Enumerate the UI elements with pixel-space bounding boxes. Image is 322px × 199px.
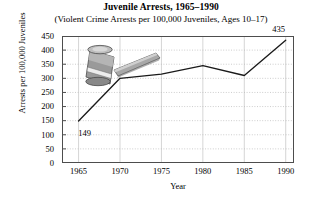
- x-tick-label: 1970: [112, 167, 129, 176]
- line-chart-svg: [62, 36, 294, 163]
- y-tick-label: 250: [41, 88, 58, 97]
- y-tick-label: 350: [41, 60, 58, 69]
- x-tick-label: 1975: [153, 167, 170, 176]
- x-tick-label: 1990: [277, 167, 294, 176]
- y-tick-label: 50: [46, 145, 59, 154]
- x-axis-tick-labels: 196519701975198019851990: [62, 167, 302, 179]
- chart-figure: Juvenile Arrests, 1965–1990 (Violent Cri…: [0, 0, 322, 199]
- y-tick-label: 450: [41, 32, 58, 41]
- x-tick-label: 1965: [70, 167, 87, 176]
- x-tick-label: 1985: [236, 167, 253, 176]
- y-tick-label: 150: [41, 116, 58, 125]
- y-tick-label: 200: [41, 102, 58, 111]
- first-point-label: 149: [78, 129, 91, 138]
- last-point-label: 435: [272, 25, 285, 34]
- y-tick-label: 400: [41, 46, 58, 55]
- y-axis-tick-labels: 050100150200250300350400450: [0, 36, 58, 163]
- x-tick-label: 1980: [194, 167, 211, 176]
- y-tick-label: 100: [41, 131, 58, 140]
- x-axis-title: Year: [62, 181, 294, 191]
- y-tick-label: 0: [50, 159, 58, 168]
- gavel-icon: [86, 45, 160, 85]
- page-title: Juvenile Arrests, 1965–1990: [0, 2, 322, 13]
- vertical-gridlines: [79, 36, 286, 163]
- y-tick-label: 300: [41, 74, 58, 83]
- plot-area: 149435: [62, 36, 294, 163]
- chart-title-block: Juvenile Arrests, 1965–1990 (Violent Cri…: [0, 2, 322, 25]
